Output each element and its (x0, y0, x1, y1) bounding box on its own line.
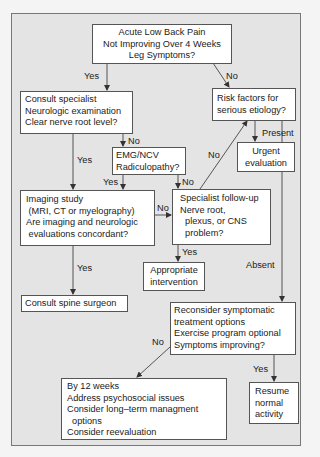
node-appropriate-intervention: Appropriate intervention (143, 262, 205, 291)
edge-label-emg-no: No (182, 177, 194, 187)
node-line: Not Improving Over 4 Weeks (97, 39, 227, 51)
node-line: Consult specialist (25, 94, 128, 106)
node-line: Reconsider symptomatic (174, 305, 292, 317)
node-imaging-study: Imaging study (MRI, CT or myelography) A… (20, 190, 155, 246)
node-line: options (67, 416, 221, 428)
edge-label-risk-absent: Absent (246, 260, 275, 270)
node-line: Imaging study (26, 194, 149, 206)
node-line: normal (255, 398, 293, 410)
node-line: Leg Symptoms? (97, 50, 227, 62)
edge-label-reconsider-yes: Yes (253, 364, 268, 374)
edge-label-imaging-yes: Yes (77, 263, 92, 273)
node-line: Are imaging and neurologic (26, 217, 149, 229)
node-line: Risk factors for (217, 93, 291, 105)
node-line: evaluations concordant? (26, 229, 149, 241)
node-line: Clear nerve root level? (25, 117, 128, 129)
node-line: Symptoms improving? (174, 340, 292, 352)
edge-label-specialist-yes: Yes (182, 247, 197, 257)
node-acute-low-back-pain: Acute Low Back Pain Not Improving Over 4… (92, 24, 232, 64)
node-line: (MRI, CT or myelography) (26, 206, 149, 218)
node-line: treatment options (174, 317, 292, 329)
edge-label-start-no: No (226, 71, 238, 81)
edge-label-specialist-no: No (208, 150, 220, 160)
node-line: intervention (146, 277, 202, 289)
node-line: Consider reevaluation (67, 427, 221, 439)
node-line: Consider long–term managment (67, 404, 221, 416)
node-line: plexus, or CNS (180, 216, 263, 228)
edge-label-emg-yes: Yes (103, 177, 118, 187)
node-reconsider-treatment: Reconsider symptomatic treatment options… (170, 302, 296, 355)
node-line: Nerve root, (180, 205, 263, 217)
node-specialist-follow-up: Specialist follow-up Nerve root, plexus,… (172, 189, 271, 245)
node-line: Resume (255, 386, 293, 398)
node-line: serious etiology? (217, 105, 291, 117)
node-line: Consult spine surgeon (25, 298, 124, 310)
node-resume-normal-activity: Resume normal activity (249, 382, 299, 424)
edge-label-risk-present: Present (262, 128, 294, 138)
node-urgent-evaluation: Urgent evaluation (237, 142, 295, 172)
edge-label-consult-no: No (128, 136, 140, 146)
node-line: EMG/NCV (116, 150, 182, 162)
node-consult-spine-surgeon: Consult spine surgeon (21, 295, 128, 312)
node-line: Exercise program optional (174, 328, 292, 340)
node-risk-factors: Risk factors for serious etiology? (212, 88, 296, 121)
node-line: Neurologic examination (25, 106, 128, 118)
node-line: evaluation (240, 158, 292, 170)
node-line: Appropriate (146, 265, 202, 277)
node-line: By 12 weeks (67, 381, 221, 393)
node-line: Urgent (240, 146, 292, 158)
node-line: activity (255, 409, 293, 421)
node-line: Acute Low Back Pain (97, 27, 227, 39)
node-consult-specialist: Consult specialist Neurologic examinatio… (20, 91, 133, 134)
edge-label-imaging-no: No (157, 203, 169, 213)
node-line: Address psychosocial issues (67, 393, 221, 405)
node-by-12-weeks: By 12 weeks Address psychosocial issues … (61, 378, 227, 440)
node-emg-ncv: EMG/NCV Radiculopathy? (112, 147, 186, 175)
edge-label-consult-yes: Yes (77, 155, 92, 165)
node-line: Specialist follow-up (180, 193, 263, 205)
edge-label-start-yes: Yes (84, 71, 99, 81)
edge-label-reconsider-no: No (152, 337, 164, 347)
node-line: Radiculopathy? (116, 162, 182, 174)
node-line: problem? (180, 228, 263, 240)
